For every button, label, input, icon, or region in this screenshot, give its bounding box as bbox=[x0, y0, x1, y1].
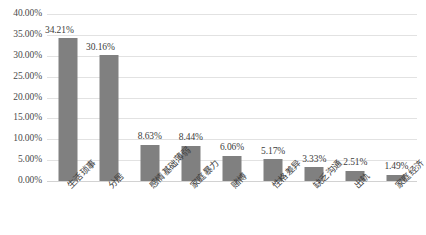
x-axis-tick: 赌博 bbox=[211, 183, 252, 235]
bar-value-label: 8.44% bbox=[179, 133, 203, 143]
bar-value-label: 6.06% bbox=[220, 143, 244, 153]
bar-group: 34.21% bbox=[47, 14, 88, 181]
y-axis-tick-label: 40.00% bbox=[0, 9, 42, 19]
bar[interactable] bbox=[58, 38, 77, 181]
bar-value-label: 30.16% bbox=[86, 43, 115, 53]
bar[interactable] bbox=[99, 55, 118, 181]
bar-group: 1.49% bbox=[376, 14, 417, 181]
bar-group: 3.33% bbox=[294, 14, 335, 181]
bar-series: 34.21%30.16%8.63%8.44%6.06%5.17%3.33%2.5… bbox=[47, 14, 417, 181]
bar-value-label: 34.21% bbox=[45, 26, 74, 36]
x-axis-tick: 家庭经济 bbox=[376, 183, 417, 235]
bar-value-label: 8.63% bbox=[138, 132, 162, 142]
y-axis-tick-label: 0.00% bbox=[0, 176, 42, 186]
x-axis-tick: 性格差异 bbox=[253, 183, 294, 235]
x-axis-tick: 生活琐事 bbox=[47, 183, 88, 235]
bar-group: 6.06% bbox=[211, 14, 252, 181]
y-axis-tick-label: 5.00% bbox=[0, 155, 42, 165]
x-axis-tick: 感情基础薄弱 bbox=[129, 183, 170, 235]
bar-value-label: 2.51% bbox=[343, 158, 367, 168]
bar-value-label: 3.33% bbox=[302, 155, 326, 165]
bar-group: 8.63% bbox=[129, 14, 170, 181]
x-axis-tick: 缺乏沟通 bbox=[294, 183, 335, 235]
x-axis-tick: 出轨 bbox=[335, 183, 376, 235]
bar-group: 5.17% bbox=[253, 14, 294, 181]
plot-area: 34.21%30.16%8.63%8.44%6.06%5.17%3.33%2.5… bbox=[47, 14, 417, 181]
y-axis-tick-label: 35.00% bbox=[0, 30, 42, 40]
y-axis: 0.00%5.00%10.00%15.00%20.00%25.00%30.00%… bbox=[0, 0, 46, 185]
y-axis-tick-label: 15.00% bbox=[0, 114, 42, 124]
x-axis-tick: 分居 bbox=[88, 183, 129, 235]
y-axis-tick-label: 25.00% bbox=[0, 72, 42, 82]
y-axis-tick-label: 20.00% bbox=[0, 93, 42, 103]
bar-value-label: 5.17% bbox=[261, 147, 285, 157]
y-axis-tick-label: 10.00% bbox=[0, 135, 42, 145]
bar-group: 30.16% bbox=[88, 14, 129, 181]
x-axis-tick: 家庭暴力 bbox=[170, 183, 211, 235]
x-axis: 生活琐事分居感情基础薄弱家庭暴力赌博性格差异缺乏沟通出轨家庭经济 bbox=[47, 183, 417, 235]
bar-group: 2.51% bbox=[335, 14, 376, 181]
y-axis-tick-label: 30.00% bbox=[0, 51, 42, 61]
